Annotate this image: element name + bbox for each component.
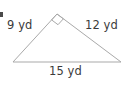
side-label-leg-b: 12 yd: [85, 19, 118, 32]
right-angle-marker-icon: [52, 14, 64, 25]
side-label-leg-a: 9 yd: [7, 19, 32, 32]
side-label-base: 15 yd: [49, 65, 82, 78]
triangle-drawing: [0, 0, 127, 97]
edge-artifact-mark: [0, 12, 3, 17]
right-triangle-figure: 9 yd 12 yd 15 yd: [0, 0, 127, 97]
